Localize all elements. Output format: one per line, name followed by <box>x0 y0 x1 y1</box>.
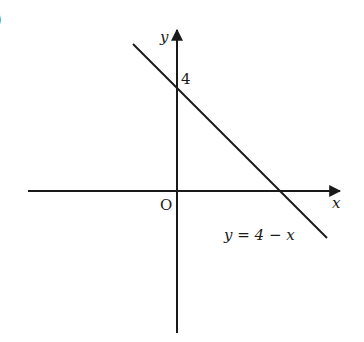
line-equation-label: y = 4 − x <box>224 228 295 243</box>
y-axis-label: y <box>160 30 168 45</box>
y-intercept-label: 4 <box>181 72 191 87</box>
x-axis-label: x <box>332 196 340 211</box>
graph-svg <box>0 0 364 342</box>
graph-figure: ) y 4 O x y = 4 − x <box>0 0 364 342</box>
origin-label: O <box>160 198 172 213</box>
part-marker: ) <box>0 5 1 31</box>
